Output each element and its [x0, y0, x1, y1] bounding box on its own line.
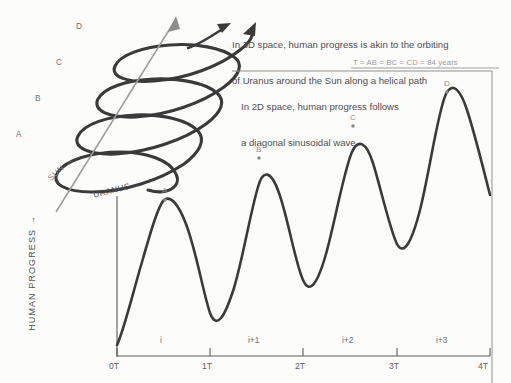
- plot-axes: [117, 196, 490, 357]
- note-3d-line-1: In 3D space, human progress is akin to t…: [232, 39, 449, 51]
- x-tick-label-1: 1T: [202, 361, 212, 371]
- x-tick-label-3: 3T: [389, 361, 399, 371]
- wave-peak-label-b: B: [256, 145, 261, 154]
- note-3d-leader-arrow: [188, 23, 231, 48]
- note-2d-text: In 2D space, human progress follows a di…: [241, 76, 399, 174]
- y-axis-label: HUMAN PROGRESS →: [27, 203, 37, 343]
- period-note-text: T = AB = BC = CD = 84 years: [353, 58, 458, 68]
- x-tick-label-0: 0T: [109, 361, 119, 371]
- wave-peak-label-d: D: [444, 79, 450, 88]
- interval-label-0: i: [160, 335, 162, 345]
- helix-diagram: [56, 22, 256, 192]
- x-tick-label-2: 2T: [295, 361, 305, 371]
- peak-marker-a: [163, 198, 167, 202]
- helix-loop-label-c: C: [56, 58, 62, 67]
- interval-label-1: i+1: [248, 335, 259, 345]
- note-3d-leader-path: [188, 28, 224, 48]
- figure-canvas: In 3D space, human progress is akin to t…: [0, 0, 511, 383]
- sun-axis-arrowhead: [168, 16, 180, 32]
- wave-peak-label-c: C: [350, 113, 356, 122]
- helix-loop-label-b: B: [35, 94, 40, 103]
- helix-loop-label-a: A: [16, 130, 21, 139]
- x-tick-label-4: 4T: [478, 361, 488, 371]
- interval-label-2: i+2: [342, 335, 353, 345]
- note-2d-line-1: In 2D space, human progress follows: [241, 101, 399, 113]
- helix-loop-label-d: D: [76, 22, 82, 31]
- note-2d-line-2: a diagonal sinusoidal wave: [241, 137, 399, 149]
- interval-label-3: i+3: [436, 335, 447, 345]
- wave-peak-label-a: A: [162, 186, 167, 195]
